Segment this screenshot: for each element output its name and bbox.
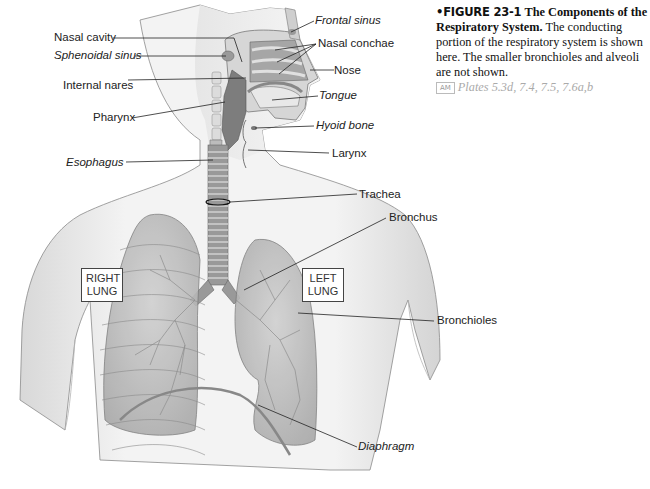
label-esophagus: Esophagus bbox=[66, 157, 124, 169]
label-bronchus: Bronchus bbox=[389, 212, 438, 224]
label-hyoid-bone: Hyoid bone bbox=[316, 120, 374, 132]
right-lung-label-box: RIGHT LUNG bbox=[81, 268, 123, 302]
label-diaphragm: Diaphragm bbox=[358, 441, 414, 453]
label-nose: Nose bbox=[334, 65, 361, 77]
right-lung-label-line1: RIGHT bbox=[86, 272, 118, 285]
label-nasal-conchae: Nasal conchae bbox=[318, 38, 394, 50]
label-frontal-sinus: Frontal sinus bbox=[315, 15, 381, 27]
label-pharynx: Pharynx bbox=[93, 112, 135, 124]
label-larynx: Larynx bbox=[332, 148, 367, 160]
left-lung-label-line2: LUNG bbox=[307, 285, 339, 298]
label-tongue: Tongue bbox=[319, 90, 357, 102]
figure-number: FIGURE 23-1 bbox=[443, 5, 521, 19]
left-lung-label-line1: LEFT bbox=[307, 272, 339, 285]
right-lung-label-line2: LUNG bbox=[86, 285, 118, 298]
respiratory-diagram: Nasal cavity Sphenoidal sinus Internal n… bbox=[0, 0, 650, 489]
label-trachea: Trachea bbox=[359, 189, 401, 201]
plates-reference: Plates 5.3d, 7.4, 7.5, 7.6a,b bbox=[458, 80, 593, 94]
left-lung-label-box: LEFT LUNG bbox=[302, 268, 344, 302]
atlas-badge: AM bbox=[436, 82, 455, 94]
label-bronchioles: Bronchioles bbox=[437, 315, 497, 327]
figure-caption: •FIGURE 23-1 The Components of the Respi… bbox=[436, 5, 648, 95]
label-sphenoidal-sinus: Sphenoidal sinus bbox=[54, 50, 142, 62]
label-internal-nares: Internal nares bbox=[63, 80, 133, 92]
label-nasal-cavity: Nasal cavity bbox=[54, 32, 116, 44]
